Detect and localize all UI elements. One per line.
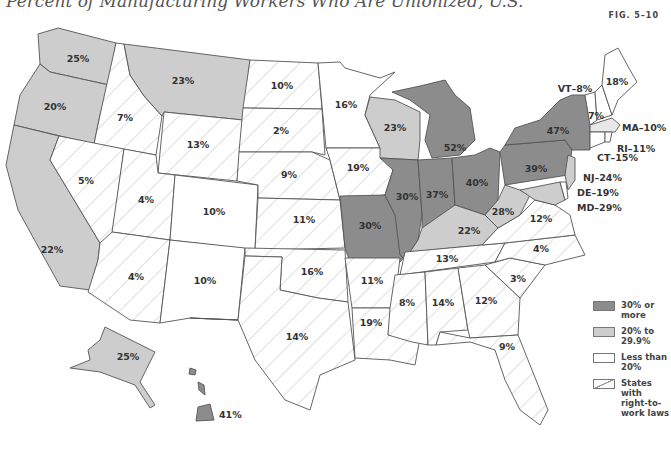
- label-NJ: NJ–24%: [583, 172, 622, 183]
- legend-label-high: 30% or more: [621, 300, 671, 320]
- label-WV: 28%: [492, 206, 515, 217]
- legend: 30% or more 20% to 29.9% Less than 20% S…: [593, 300, 671, 424]
- legend-item-rtw: States with right-to-work laws: [593, 378, 671, 418]
- label-NE: 9%: [281, 169, 298, 180]
- label-AK: 25%: [117, 351, 140, 362]
- state-RI: [605, 132, 612, 142]
- label-MI: 52%: [444, 142, 467, 153]
- swatch-rtw: [593, 379, 615, 389]
- label-HI: 41%: [219, 409, 242, 420]
- legend-label-rtw-line2: right-to-work laws: [621, 398, 671, 418]
- legend-item-high: 30% or more: [593, 300, 671, 320]
- label-CA: 22%: [41, 244, 64, 255]
- label-IL: 30%: [396, 191, 419, 202]
- label-KS: 11%: [293, 214, 316, 225]
- label-OK: 16%: [301, 266, 324, 277]
- legend-label-rtw: States with right-to-work laws: [621, 378, 671, 418]
- label-IA: 19%: [347, 162, 370, 173]
- legend-item-mid: 20% to 29.9%: [593, 326, 671, 346]
- label-NH: 7%: [588, 110, 605, 121]
- label-WA: 25%: [67, 53, 90, 64]
- label-MO: 30%: [359, 220, 382, 231]
- swatch-low: [593, 353, 615, 363]
- label-PA: 39%: [525, 163, 548, 174]
- label-VT: VT–8%: [558, 83, 593, 94]
- label-ID: 7%: [117, 112, 134, 123]
- label-MD: MD–29%: [577, 202, 622, 213]
- legend-item-low: Less than 20%: [593, 352, 671, 372]
- label-MS: 8%: [399, 297, 416, 308]
- label-CO: 10%: [203, 206, 226, 217]
- label-OR: 20%: [44, 101, 67, 112]
- label-IN: 37%: [426, 189, 449, 200]
- label-SC: 3%: [510, 273, 527, 284]
- label-FL: 9%: [499, 341, 516, 352]
- state-CT: [590, 132, 605, 148]
- label-MT: 23%: [172, 75, 195, 86]
- us-map: 25% 20% 22% 7% 5% 23% 13% 4% 4% 10% 10% …: [0, 0, 671, 474]
- state-HI: [196, 404, 214, 421]
- label-DE: DE–19%: [577, 187, 619, 198]
- label-ND: 10%: [271, 80, 294, 91]
- state-HI-islands: [189, 368, 205, 395]
- label-VA: 12%: [530, 213, 553, 224]
- label-CT: CT–15%: [597, 152, 638, 163]
- label-SD: 2%: [273, 125, 290, 136]
- legend-label-low: Less than 20%: [621, 352, 671, 372]
- label-NC: 4%: [533, 243, 550, 254]
- label-WI: 23%: [384, 122, 407, 133]
- label-MA: MA–10%: [622, 122, 667, 133]
- swatch-mid: [593, 327, 615, 337]
- state-MS: [388, 272, 428, 345]
- label-NV: 5%: [78, 175, 95, 186]
- label-NM: 10%: [194, 275, 217, 286]
- state-FL: [436, 332, 548, 425]
- state-NY: [505, 95, 590, 150]
- swatch-high: [593, 301, 615, 311]
- label-GA: 12%: [475, 295, 498, 306]
- legend-label-mid: 20% to 29.9%: [621, 326, 671, 346]
- state-AK: [70, 327, 155, 408]
- label-LA: 19%: [360, 317, 383, 328]
- label-ME: 18%: [606, 76, 629, 87]
- label-TX: 14%: [286, 331, 309, 342]
- label-AL: 14%: [432, 297, 455, 308]
- label-WY: 13%: [187, 139, 210, 150]
- label-AR: 11%: [361, 275, 384, 286]
- label-MN: 16%: [335, 99, 358, 110]
- label-TN: 13%: [436, 253, 459, 264]
- label-AZ: 4%: [128, 271, 145, 282]
- legend-label-rtw-line1: States with: [621, 378, 671, 398]
- label-UT: 4%: [138, 194, 155, 205]
- label-KY: 22%: [458, 225, 481, 236]
- label-NY: 47%: [547, 125, 570, 136]
- label-OH: 40%: [466, 177, 489, 188]
